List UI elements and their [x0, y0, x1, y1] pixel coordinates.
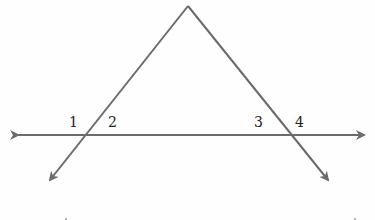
- bottom-mark-left: [65, 218, 67, 220]
- angle-label-2: 2: [108, 115, 117, 129]
- left-ray: [50, 6, 188, 180]
- angle-label-3: 3: [254, 115, 263, 129]
- angle-label-1: 1: [69, 115, 78, 129]
- right-ray: [188, 6, 328, 180]
- angle-label-4: 4: [295, 115, 304, 129]
- diagram-canvas: 1 2 3 4: [0, 0, 375, 220]
- bottom-mark-right: [354, 218, 356, 220]
- geometry-figure: [0, 0, 375, 220]
